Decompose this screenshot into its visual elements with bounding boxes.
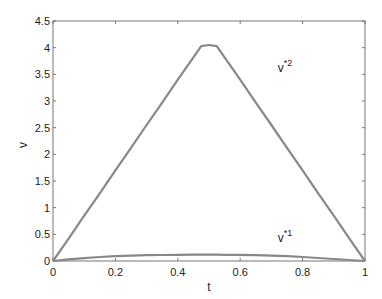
x-tick-label: 0.2	[108, 266, 123, 278]
x-axis-label: t	[207, 280, 211, 294]
y-tick-label: 2	[44, 148, 50, 160]
y-tick-label: 0.5	[35, 228, 50, 240]
x-tick-label: 0	[50, 266, 56, 278]
series-line-v1	[53, 255, 365, 261]
x-tick-label: 1	[362, 266, 368, 278]
y-tick-label: 0	[44, 255, 50, 267]
figure: 00.20.40.60.8100.511.522.533.544.5tvv*2v…	[0, 0, 382, 299]
y-tick-label: 4	[44, 42, 50, 54]
x-tick-label: 0.4	[170, 266, 185, 278]
y-tick-label: 3.5	[35, 68, 50, 80]
curve-label: v*1	[278, 228, 293, 245]
line-chart: 00.20.40.60.8100.511.522.533.544.5tvv*2v…	[0, 0, 382, 299]
series-line-v2	[53, 45, 365, 261]
y-tick-label: 1.5	[35, 175, 50, 187]
y-tick-label: 4.5	[35, 15, 50, 27]
y-tick-label: 2.5	[35, 122, 50, 134]
y-tick-label: 3	[44, 95, 50, 107]
x-tick-label: 0.6	[233, 266, 248, 278]
y-tick-label: 1	[44, 202, 50, 214]
curve-label: v*2	[278, 58, 293, 75]
axes-box	[53, 21, 365, 261]
x-tick-label: 0.8	[295, 266, 310, 278]
y-axis-label: v	[16, 142, 30, 148]
